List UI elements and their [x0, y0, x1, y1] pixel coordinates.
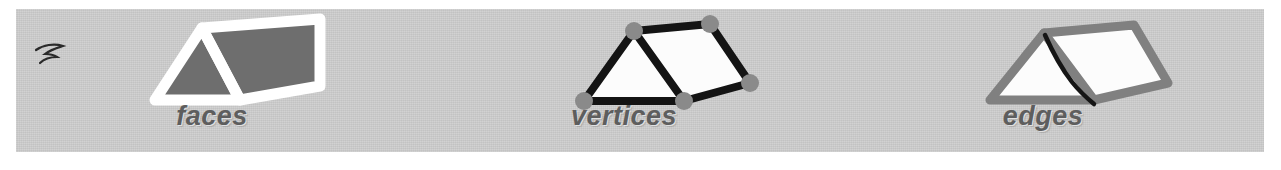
panel-vertices: vertices: [432, 9, 848, 152]
caption-edges: edges: [835, 101, 1251, 132]
vertex-dot: [625, 22, 643, 40]
caption-vertices: vertices: [416, 101, 832, 132]
ink-squiggle-mark: [36, 45, 63, 63]
caption-faces: faces: [4, 101, 420, 132]
figure-strip: faces: [0, 0, 1281, 170]
panel-row: faces: [16, 9, 1264, 152]
panel-edges: edges: [848, 9, 1264, 152]
vertex-dot: [741, 74, 759, 92]
vertex-dot: [701, 15, 719, 33]
panel-faces: faces: [16, 9, 432, 152]
